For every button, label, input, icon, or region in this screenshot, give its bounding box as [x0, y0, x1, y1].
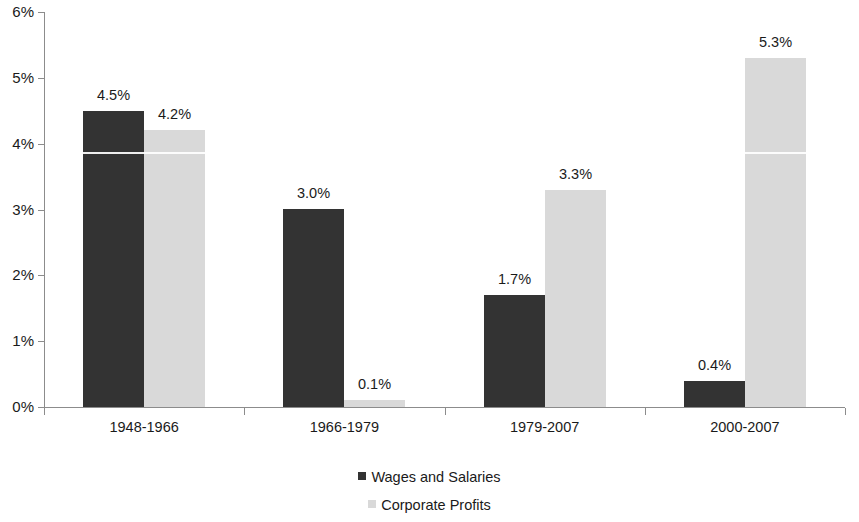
y-axis-tick-label: 6%	[0, 4, 34, 19]
legend-swatch-icon	[368, 500, 376, 508]
bar-value-label: 4.2%	[145, 107, 205, 122]
y-axis-tick	[38, 341, 45, 342]
bar-wages-and-salaries	[684, 381, 745, 407]
y-axis-tick	[38, 78, 45, 79]
y-axis-tick	[38, 275, 45, 276]
bar-wages-and-salaries	[283, 209, 344, 407]
bar-value-label: 0.1%	[345, 377, 405, 392]
y-axis-tick-label: 0%	[0, 399, 34, 414]
bar-wages-and-salaries	[484, 295, 545, 407]
y-axis-tick-label: 3%	[0, 202, 34, 217]
y-axis-tick	[38, 210, 45, 211]
y-axis-tick	[38, 144, 45, 145]
chart-legend: Wages and SalariesCorporate Profits	[0, 463, 859, 518]
x-axis-tick	[645, 408, 646, 415]
bar-value-label: 5.3%	[746, 35, 806, 50]
x-axis-category-label: 1979-2007	[445, 420, 645, 436]
y-axis-tick-label: 5%	[0, 70, 34, 85]
x-axis-category-label: 1966-1979	[244, 420, 444, 436]
x-axis-tick	[44, 408, 45, 415]
legend-item[interactable]: Corporate Profits	[0, 491, 859, 519]
legend-label: Corporate Profits	[381, 496, 491, 512]
bar-value-label: 3.0%	[284, 186, 344, 201]
y-axis-tick-label: 1%	[0, 333, 34, 348]
x-axis-category-label: 1948-1966	[44, 420, 244, 436]
x-axis-tick	[244, 408, 245, 415]
y-axis-tick-label: 2%	[0, 267, 34, 282]
y-axis-tick	[38, 12, 45, 13]
legend-label: Wages and Salaries	[371, 469, 500, 485]
bar-corporate-profits	[344, 400, 405, 407]
legend-swatch-icon	[358, 472, 366, 480]
bar-wages-and-salaries	[83, 111, 144, 407]
x-axis-tick	[445, 408, 446, 415]
bar-corporate-profits	[545, 190, 606, 407]
x-axis-category-label: 2000-2007	[645, 420, 845, 436]
bar-value-label: 4.5%	[84, 88, 144, 103]
bar-corporate-profits	[144, 130, 205, 407]
bar-value-label: 3.3%	[546, 167, 606, 182]
bar-chart: 0%1%2%3%4%5%6% 4.5%4.2%3.0%0.1%1.7%3.3%0…	[0, 0, 859, 522]
bar-value-label: 1.7%	[485, 272, 545, 287]
bar-corporate-profits	[745, 58, 806, 407]
y-axis-tick-label: 4%	[0, 136, 34, 151]
bar-value-label: 0.4%	[685, 358, 745, 373]
x-axis-tick	[845, 408, 846, 415]
legend-item[interactable]: Wages and Salaries	[0, 463, 859, 491]
